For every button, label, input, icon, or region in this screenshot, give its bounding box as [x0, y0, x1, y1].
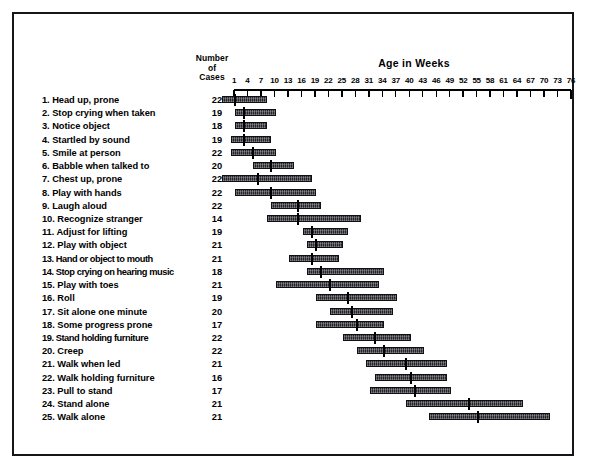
range-bar-24: [406, 400, 523, 407]
milestone-label-2: 2. Stop crying when taken: [42, 108, 200, 118]
case-count-4: 19: [204, 135, 230, 145]
median-marker-8: [270, 187, 272, 199]
chart-frame: Number of Cases Age in Weeks 14710131619…: [12, 12, 574, 456]
median-marker-10: [297, 213, 299, 225]
range-bar-16: [316, 294, 397, 301]
x-tick-label-25: 25: [332, 76, 352, 85]
x-tick-label-40: 40: [399, 76, 419, 85]
median-marker-23: [414, 385, 416, 397]
case-count-18: 17: [204, 320, 230, 330]
table-row: 17. Sit alone one minute20: [14, 306, 576, 319]
case-count-9: 22: [204, 201, 230, 211]
case-count-10: 14: [204, 214, 230, 224]
x-tick-label-61: 61: [494, 76, 514, 85]
range-bar-11: [303, 228, 348, 235]
x-tick-label-13: 13: [278, 76, 298, 85]
milestone-label-22: 22. Walk holding furniture: [42, 373, 200, 383]
milestone-label-12: 12. Play with object: [42, 240, 200, 250]
range-bar-9: [271, 202, 320, 209]
median-marker-13: [311, 253, 313, 265]
milestone-label-15: 15. Play with toes: [42, 280, 200, 290]
milestone-label-14: 14. Stop crying on hearing music: [42, 267, 200, 277]
table-row: 15. Play with toes21: [14, 279, 576, 292]
range-bar-25: [429, 413, 550, 420]
x-tick-label-34: 34: [372, 76, 392, 85]
case-count-15: 21: [204, 280, 230, 290]
median-marker-22: [410, 372, 412, 384]
range-bar-14: [307, 268, 383, 275]
milestone-label-5: 5. Smile at person: [42, 148, 200, 158]
table-row: 20. Creep22: [14, 345, 576, 358]
case-count-20: 22: [204, 346, 230, 356]
table-row: 10. Recognize stranger14: [14, 213, 576, 226]
case-count-11: 19: [204, 227, 230, 237]
table-row: 11. Adjust for lifting19: [14, 226, 576, 239]
milestone-label-11: 11. Adjust for lifting: [42, 227, 200, 237]
median-marker-7: [257, 173, 259, 185]
cases-header-line3: Cases: [190, 73, 234, 83]
range-bar-20: [357, 347, 424, 354]
median-marker-9: [297, 200, 299, 212]
table-row: 4. Startled by sound19: [14, 134, 576, 147]
x-tick-label-10: 10: [264, 76, 284, 85]
milestone-label-13: 13. Hand or object to mouth: [42, 254, 200, 264]
median-marker-1: [234, 94, 236, 106]
range-bar-3: [235, 122, 266, 129]
median-marker-14: [320, 266, 322, 278]
range-bar-12: [307, 241, 343, 248]
range-bar-23: [370, 387, 451, 394]
range-bar-2: [235, 109, 275, 116]
case-count-3: 18: [204, 121, 230, 131]
milestone-label-4: 4. Startled by sound: [42, 135, 200, 145]
case-count-25: 21: [204, 412, 230, 422]
milestone-label-1: 1. Head up, prone: [42, 95, 200, 105]
median-marker-5: [252, 147, 254, 159]
table-row: 1. Head up, prone22: [14, 94, 576, 107]
case-count-19: 22: [204, 333, 230, 343]
milestone-label-24: 24. Stand alone: [42, 399, 200, 409]
milestone-label-16: 16. Roll: [42, 293, 200, 303]
range-bar-7: [222, 175, 312, 182]
table-row: 13. Hand or object to mouth21: [14, 253, 576, 266]
x-tick-label-73: 73: [548, 76, 568, 85]
case-count-22: 16: [204, 373, 230, 383]
median-marker-2: [243, 107, 245, 119]
median-marker-25: [477, 411, 479, 423]
milestone-label-18: 18. Some progress prone: [42, 320, 200, 330]
milestone-label-10: 10. Recognize stranger: [42, 214, 200, 224]
x-tick-label-70: 70: [534, 76, 554, 85]
x-tick-label-28: 28: [345, 76, 365, 85]
table-row: 8. Play with hands22: [14, 187, 576, 200]
median-marker-21: [405, 358, 407, 370]
chart-title: Age in Weeks: [314, 57, 514, 69]
case-count-8: 22: [204, 188, 230, 198]
milestone-label-3: 3. Notice object: [42, 121, 200, 131]
case-count-5: 22: [204, 148, 230, 158]
median-marker-18: [356, 319, 358, 331]
x-tick-label-76: 76: [561, 76, 581, 85]
range-bar-18: [316, 321, 383, 328]
table-row: 7. Chest up, prone22: [14, 173, 576, 186]
x-tick-label-67: 67: [521, 76, 541, 85]
case-count-13: 21: [204, 254, 230, 264]
milestone-label-9: 9. Laugh aloud: [42, 201, 200, 211]
range-bar-8: [235, 189, 316, 196]
median-marker-3: [243, 120, 245, 132]
range-bar-19: [343, 334, 410, 341]
table-row: 12. Play with object21: [14, 239, 576, 252]
x-tick-label-19: 19: [305, 76, 325, 85]
median-marker-17: [351, 306, 353, 318]
x-tick-label-22: 22: [318, 76, 338, 85]
milestone-label-21: 21. Walk when led: [42, 359, 200, 369]
table-row: 5. Smile at person22: [14, 147, 576, 160]
table-row: 19. Stand holding furniture22: [14, 332, 576, 345]
table-row: 22. Walk holding furniture16: [14, 372, 576, 385]
table-row: 14. Stop crying on hearing music18: [14, 266, 576, 279]
median-marker-6: [270, 160, 272, 172]
x-tick-label-58: 58: [480, 76, 500, 85]
range-bar-15: [276, 281, 379, 288]
table-row: 2. Stop crying when taken19: [14, 107, 576, 120]
table-row: 6. Babble when talked to20: [14, 160, 576, 173]
median-marker-19: [374, 332, 376, 344]
x-tick-label-31: 31: [359, 76, 379, 85]
